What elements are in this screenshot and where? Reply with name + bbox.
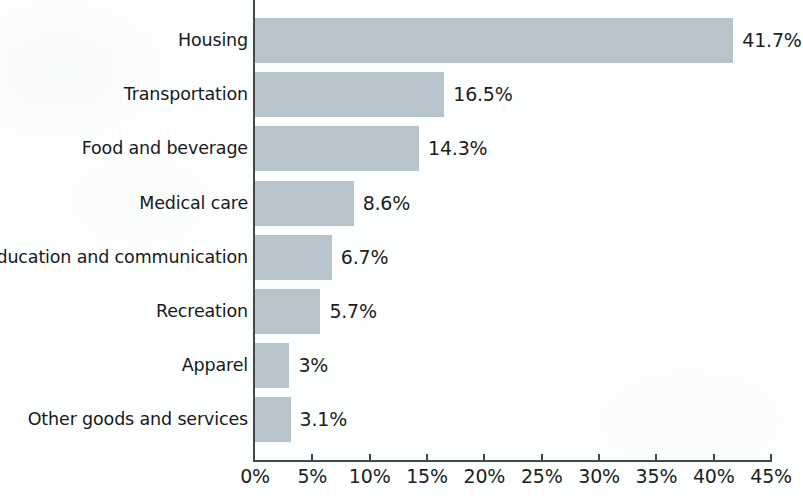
- bar-row: Transportation16.5%: [0, 72, 803, 117]
- bar-value-label: 3.1%: [300, 410, 347, 429]
- bar-row: Education and communication6.7%: [0, 235, 803, 280]
- category-label: Other goods and services: [28, 411, 248, 429]
- bar: [255, 235, 332, 280]
- bar-row: Food and beverage14.3%: [0, 126, 803, 171]
- category-label: Apparel: [182, 357, 248, 375]
- category-label: Recreation: [156, 303, 248, 321]
- plot-area: 0%5%10%15%20%25%30%35%40%45% Housing41.7…: [0, 0, 803, 504]
- bar: [255, 397, 291, 442]
- x-axis-tick-label: 0%: [240, 465, 270, 487]
- x-axis-tick: [598, 454, 600, 461]
- bar-value-label: 6.7%: [341, 248, 388, 267]
- x-axis-tick-label: 45%: [750, 465, 792, 487]
- y-axis-line: [253, 0, 255, 462]
- bar: [255, 343, 289, 388]
- bar-row: Recreation5.7%: [0, 289, 803, 334]
- bar: [255, 18, 733, 63]
- x-axis-tick-label: 35%: [636, 465, 678, 487]
- x-axis-line: [253, 460, 772, 462]
- bar-value-label: 41.7%: [742, 31, 801, 50]
- category-label: Housing: [178, 32, 248, 50]
- x-axis-tick: [770, 454, 772, 461]
- bar-row: Apparel3%: [0, 343, 803, 388]
- bar: [255, 289, 320, 334]
- bar-value-label: 3%: [298, 356, 328, 375]
- bar-value-label: 14.3%: [428, 139, 487, 158]
- x-axis-tick: [483, 454, 485, 461]
- x-axis-tick: [311, 454, 313, 461]
- category-label: Education and communication: [0, 249, 248, 267]
- x-axis-tick: [655, 454, 657, 461]
- bar: [255, 126, 419, 171]
- x-axis-tick-label: 40%: [693, 465, 735, 487]
- category-label: Food and beverage: [82, 140, 248, 158]
- x-axis-tick-label: 10%: [349, 465, 391, 487]
- x-axis-tick-label: 20%: [464, 465, 506, 487]
- bar-value-label: 5.7%: [329, 302, 376, 321]
- x-axis-tick: [541, 454, 543, 461]
- bar: [255, 72, 444, 117]
- bar-row: Other goods and services3.1%: [0, 397, 803, 442]
- bar-row: Medical care8.6%: [0, 181, 803, 226]
- x-axis-tick-label: 30%: [578, 465, 620, 487]
- bar-row: Housing41.7%: [0, 18, 803, 63]
- x-axis-tick-label: 15%: [406, 465, 448, 487]
- bar-value-label: 8.6%: [363, 194, 410, 213]
- x-axis-tick: [426, 454, 428, 461]
- bar-value-label: 16.5%: [453, 85, 512, 104]
- x-axis-tick-label: 5%: [297, 465, 327, 487]
- bar: [255, 181, 354, 226]
- bar-chart: 0%5%10%15%20%25%30%35%40%45% Housing41.7…: [0, 0, 803, 504]
- x-axis-tick: [713, 454, 715, 461]
- x-axis-tick-label: 25%: [521, 465, 563, 487]
- x-axis-tick: [369, 454, 371, 461]
- category-label: Medical care: [139, 195, 248, 213]
- category-label: Transportation: [124, 86, 248, 104]
